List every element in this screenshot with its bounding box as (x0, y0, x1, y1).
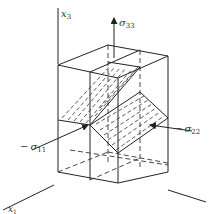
x3-label: x3 (61, 8, 71, 21)
x2-axis (168, 190, 206, 202)
shaded-plane-upper (58, 62, 140, 125)
stress-diagram: x3 σ33 −σ11 −σ22 x1 (0, 0, 215, 214)
sigma22-label: −σ22 (174, 123, 200, 136)
shaded-plane-lower (90, 92, 168, 153)
sigma11-label: −σ11 (20, 141, 46, 154)
x1-label: x1 (8, 204, 17, 214)
sigma33-label: σ33 (119, 17, 135, 30)
